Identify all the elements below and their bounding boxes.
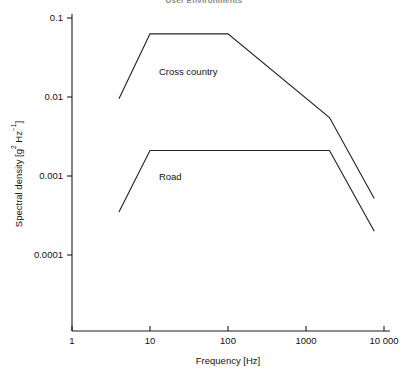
y-axis-title: Spectral density [g2 Hz−1]	[9, 121, 24, 227]
series-annotations: Cross countryRoad	[159, 66, 218, 182]
chart-canvas: 0.00010.0010.010.1 110100100010 000 Cros…	[0, 0, 408, 380]
series-annotation-1: Road	[159, 171, 182, 182]
chart-title: User Environments	[0, 0, 408, 5]
x-axis-ticks: 110100100010 000	[69, 326, 398, 346]
svg-text:Spectral density [g2 Hz−1]: Spectral density [g2 Hz−1]	[9, 121, 24, 227]
x-tick-label: 1000	[295, 335, 316, 346]
y-tick-label: 0.01	[45, 91, 64, 102]
series-annotation-0: Cross country	[159, 66, 218, 77]
x-tick-label: 10	[145, 335, 156, 346]
chart-figure: User Environments 0.00010.0010.010.1 110…	[0, 0, 408, 380]
y-tick-label: 0.0001	[34, 249, 63, 260]
series-line-0	[119, 34, 374, 199]
y-tick-label: 0.1	[50, 12, 63, 23]
x-tick-label: 100	[220, 335, 236, 346]
y-tick-label: 0.001	[39, 170, 63, 181]
data-series-layer	[119, 34, 374, 231]
x-axis-title: Frequency [Hz]	[196, 355, 260, 366]
x-tick-label: 1	[69, 335, 74, 346]
y-axis-ticks: 0.00010.0010.010.1	[34, 12, 72, 260]
x-tick-label: 10 000	[369, 335, 398, 346]
series-line-1	[119, 151, 374, 232]
